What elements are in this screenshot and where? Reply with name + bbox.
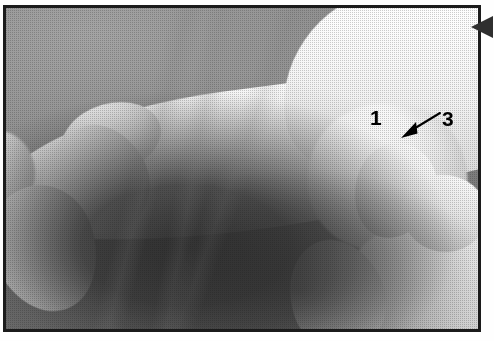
annotation-label-1: 1: [370, 107, 382, 128]
figure-root: 1 3: [0, 0, 494, 341]
left-pointing-triangle-icon: [470, 14, 494, 40]
annotation-label-3: 3: [442, 108, 454, 129]
clinical-photograph: 1 3: [3, 5, 481, 332]
